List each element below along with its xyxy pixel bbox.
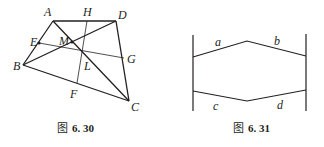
figure-6-31-caption: 图 6. 31 <box>233 122 270 134</box>
label-G: G <box>127 52 136 66</box>
bottom-path-cd <box>193 90 306 101</box>
label-a: a <box>215 35 221 49</box>
label-B: B <box>13 59 21 73</box>
figure-6-31 <box>193 34 306 111</box>
label-H: H <box>82 5 93 19</box>
caption-prefix: 图 <box>57 122 68 134</box>
label-L: L <box>83 59 91 73</box>
point-E-dot <box>37 41 40 44</box>
label-E: E <box>29 35 38 49</box>
label-c: c <box>213 99 219 113</box>
figure-6-30-caption: 图 6. 30 <box>57 122 95 134</box>
caption-number: 6. 30 <box>72 122 95 134</box>
caption-prefix: 图 <box>233 122 244 134</box>
label-C: C <box>131 100 140 114</box>
segment-HF <box>77 21 87 83</box>
diagram-canvas: A H D E M G B L F C 图 6. 30 a b c d 图 6.… <box>0 0 324 147</box>
label-b: b <box>274 34 280 48</box>
point-M-dot <box>70 40 73 43</box>
label-d: d <box>277 98 284 112</box>
label-M: M <box>58 34 70 48</box>
label-D: D <box>117 8 127 22</box>
caption-number: 6. 31 <box>248 122 270 134</box>
label-F: F <box>69 87 78 101</box>
top-path-ab <box>193 41 306 57</box>
label-A: A <box>43 5 52 19</box>
